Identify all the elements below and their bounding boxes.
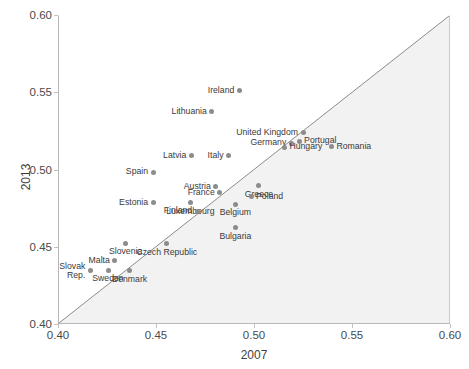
data-point-label: Estonia	[119, 198, 148, 208]
y-tick-label: 0.55	[0, 86, 52, 98]
data-point[interactable]	[329, 144, 334, 149]
x-tick-label: 0.60	[420, 329, 469, 341]
data-point-label: United Kingdom	[236, 128, 298, 138]
data-point[interactable]	[106, 268, 111, 273]
data-point-label: Finland	[164, 207, 193, 217]
scatter-plot-figure: 0.400.450.500.550.60 0.400.450.500.550.6…	[0, 0, 469, 369]
x-tick-mark	[450, 324, 451, 328]
data-point-label: Lithuania	[172, 107, 207, 117]
data-point[interactable]	[282, 145, 287, 150]
x-tick-mark	[254, 324, 255, 328]
data-point[interactable]	[151, 170, 156, 175]
x-axis-title: 2007	[58, 348, 450, 362]
data-point[interactable]	[123, 241, 128, 246]
data-point-label: Romania	[336, 142, 371, 152]
data-point-label: Czech Republic	[136, 248, 197, 258]
data-point-label: Ireland	[208, 86, 235, 96]
y-axis-title: 2013	[19, 147, 33, 207]
data-point-label: Italy	[208, 151, 224, 161]
data-point-label: Spain	[126, 167, 148, 177]
x-tick-mark	[156, 324, 157, 328]
data-point-label: Bulgaria	[219, 232, 251, 242]
data-point[interactable]	[249, 194, 254, 199]
data-point[interactable]	[195, 209, 200, 214]
plot-area: IrelandLithuaniaUnited KingdomGermanyPor…	[58, 15, 450, 324]
data-point[interactable]	[233, 202, 238, 207]
data-point-label: Poland	[256, 192, 283, 202]
data-point-label: Latvia	[163, 151, 186, 161]
x-tick-mark	[58, 324, 59, 328]
data-point-label: Denmark	[112, 275, 147, 285]
data-point-label: Belgium	[220, 209, 251, 219]
x-tick-label: 0.40	[28, 329, 88, 341]
data-point-label: Germany	[251, 139, 287, 149]
y-tick-label: 0.60	[0, 9, 52, 21]
data-point-label: Hungary	[289, 142, 322, 152]
data-point-label: Malta	[89, 256, 110, 266]
x-tick-label: 0.55	[322, 329, 382, 341]
x-tick-mark	[352, 324, 353, 328]
data-point-label: France	[188, 188, 215, 198]
data-point-label: SlovakRep.	[59, 262, 85, 280]
x-tick-label: 0.45	[126, 329, 186, 341]
y-tick-label: 0.45	[0, 241, 52, 253]
x-tick-label: 0.50	[224, 329, 284, 341]
